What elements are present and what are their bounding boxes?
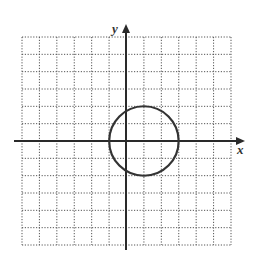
coordinate-graph: y x <box>0 0 254 260</box>
y-axis-label: y <box>110 21 118 36</box>
x-axis-label: x <box>236 142 244 157</box>
y-axis-arrow-icon <box>122 24 130 33</box>
